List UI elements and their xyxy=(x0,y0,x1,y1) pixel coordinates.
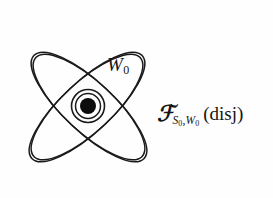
label-w0-subscript: 0 xyxy=(123,63,129,77)
label-disj-qualifier: (disj) xyxy=(203,104,243,123)
center-marks-group xyxy=(72,90,105,123)
sub-w-letter: W xyxy=(185,114,195,126)
label-w0: W0 xyxy=(107,55,129,76)
script-f-icon: ℱ xyxy=(157,102,174,124)
core-dot xyxy=(80,98,96,114)
label-w0-letter: W xyxy=(107,54,123,75)
figure-canvas: W0 ℱS0,W0(disj) xyxy=(0,0,273,198)
sub-w-index: 0 xyxy=(195,119,199,128)
four-petal-diagram xyxy=(0,0,273,198)
label-family-subscript: S0,W0 xyxy=(173,115,200,128)
label-family-disj: ℱS0,W0(disj) xyxy=(157,101,243,124)
